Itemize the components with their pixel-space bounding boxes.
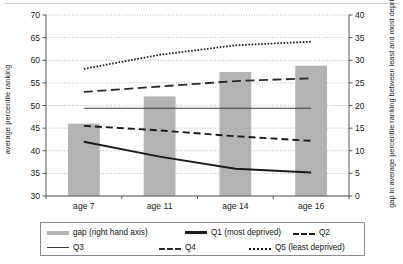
q3-line-swatch-icon	[47, 243, 69, 253]
x-axis-label: age 16	[298, 201, 325, 211]
legend-label-q5: Q5 (least deprived)	[275, 243, 345, 252]
svg-text:35: 35	[355, 33, 365, 43]
svg-text:20: 20	[355, 101, 365, 111]
svg-text:15: 15	[355, 123, 365, 133]
legend-item-q4: Q4	[159, 240, 196, 255]
y-axis-left-ticks: 303540455055606570	[30, 10, 46, 201]
svg-text:50: 50	[30, 101, 40, 111]
x-axis-label: age 7	[73, 201, 95, 211]
legend-row-1: gap (right hand axis) Q1 (most deprived)…	[41, 225, 364, 240]
q2-line-swatch-icon	[293, 228, 315, 238]
y-axis-right-ticks: 0510152025303540	[349, 10, 365, 201]
svg-text:70: 70	[30, 10, 40, 20]
bar-series-gap	[68, 66, 327, 196]
legend-label-q4: Q4	[185, 243, 196, 252]
svg-text:55: 55	[30, 78, 40, 88]
svg-text:40: 40	[30, 146, 40, 156]
legend-item-q1: Q1 (most deprived)	[185, 225, 281, 240]
legend-item-q5: Q5 (least deprived)	[249, 240, 345, 255]
svg-text:10: 10	[355, 146, 365, 156]
svg-text:60: 60	[30, 55, 40, 65]
legend-row-2: Q3 Q4 Q5 (least deprived)	[41, 240, 364, 255]
q4-line-swatch-icon	[159, 243, 181, 253]
svg-text:0: 0	[355, 191, 360, 201]
svg-text:40: 40	[355, 10, 365, 20]
x-axis-category-labels: age 7age 11age 14age 16	[46, 196, 349, 211]
legend-item-q3: Q3	[47, 240, 84, 255]
legend-item-q2: Q2	[293, 225, 330, 240]
legend-item-gap: gap (right hand axis)	[47, 225, 148, 240]
legend-label-q2: Q2	[319, 228, 330, 237]
x-axis-label: age 11	[147, 201, 173, 211]
chart-legend: gap (right hand axis) Q1 (most deprived)…	[40, 222, 365, 256]
q5-line-swatch-icon	[249, 243, 271, 253]
legend-label-q3: Q3	[73, 243, 84, 252]
svg-text:5: 5	[355, 168, 360, 178]
svg-text:65: 65	[30, 33, 40, 43]
svg-text:25: 25	[355, 78, 365, 88]
gap-swatch-icon	[47, 228, 69, 238]
legend-label-gap: gap (right hand axis)	[73, 228, 148, 237]
line-series-group	[84, 42, 311, 173]
svg-text:35: 35	[30, 168, 40, 178]
svg-text:30: 30	[355, 55, 365, 65]
svg-text:30: 30	[30, 191, 40, 201]
svg-text:45: 45	[30, 123, 40, 133]
q1-line-swatch-icon	[185, 228, 207, 238]
legend-label-q1: Q1 (most deprived)	[211, 228, 281, 237]
x-axis-label: age 14	[222, 201, 249, 211]
chart-figure: average percentile ranking gap in averag…	[0, 0, 403, 264]
